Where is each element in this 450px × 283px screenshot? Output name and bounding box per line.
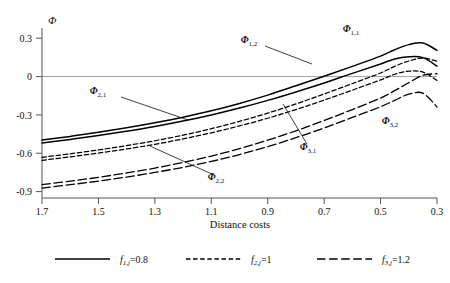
chart-figure: 0.30-0.3-0.6-0.9 1.71.51.31.10.90.70.50.… bbox=[0, 0, 450, 283]
y-tick-label: 0 bbox=[27, 71, 32, 82]
x-tick-label: 0.5 bbox=[374, 206, 387, 217]
y-tick-label: -0.9 bbox=[16, 186, 32, 197]
x-tick-label: 1.7 bbox=[36, 206, 49, 217]
y-tick-label: -0.3 bbox=[16, 110, 32, 121]
y-tick-label: -0.6 bbox=[16, 148, 32, 159]
phi-vs-distance-costs-line-chart: 0.30-0.3-0.6-0.9 1.71.51.31.10.90.70.50.… bbox=[0, 0, 450, 283]
x-axis-title: Distance costs bbox=[210, 219, 270, 230]
y-tick-label: 0.3 bbox=[20, 33, 33, 44]
x-tick-label: 1.3 bbox=[149, 206, 162, 217]
x-tick-label: 0.7 bbox=[318, 206, 331, 217]
y-axis-symbol-phi: Φ bbox=[48, 14, 57, 26]
x-tick-label: 0.9 bbox=[261, 206, 274, 217]
x-tick-label: 0.3 bbox=[431, 206, 444, 217]
x-tick-label: 1.5 bbox=[92, 206, 105, 217]
x-tick-label: 1.1 bbox=[205, 206, 218, 217]
chart-background bbox=[0, 0, 450, 283]
